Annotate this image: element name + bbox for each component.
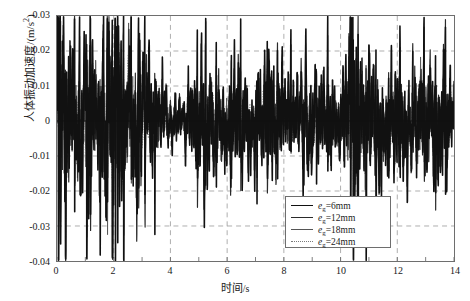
x-tick-label: 2 [98,265,128,276]
x-tick-label: 8 [269,265,299,276]
legend-item: eg=6mm [290,200,386,212]
y-axis-tick-labels: 0.03 0.02 0.01 0 -0.01 -0.02 -0.03 -0.04 [0,0,56,301]
y-tick-label: -0.03 [0,221,50,232]
legend-label: eg=12mm [314,213,355,223]
x-tick-label: 10 [326,265,356,276]
legend-line-sample [290,213,314,223]
x-axis-unit: /s [243,283,250,294]
y-tick-label: -0.02 [0,185,50,196]
legend-item: eg=12mm [290,212,386,224]
x-axis-title-text: 时间 [221,282,243,294]
y-tick-label: 0 [0,115,50,126]
x-tick-label: 12 [383,265,413,276]
legend: eg=6mm eg=12mm eg=18mm eg=24mm [285,196,391,248]
y-tick-label: 0.03 [0,9,50,20]
legend-line-sample [290,225,314,235]
legend-item: eg=24mm [290,236,386,248]
legend-label: eg=24mm [314,237,355,247]
data-traces [57,16,454,261]
x-tick-label: 14 [440,265,470,276]
legend-line-sample [290,201,314,211]
legend-label: eg=6mm [314,201,351,211]
x-tick-label: 4 [155,265,185,276]
y-tick-label: -0.01 [0,150,50,161]
data-trace [57,16,454,261]
legend-line-sample [290,237,314,247]
y-tick-label: 0.01 [0,80,50,91]
legend-label: eg=18mm [314,225,355,235]
x-axis-title: 时间/s [0,279,470,295]
legend-item: eg=18mm [290,224,386,236]
plot-area [56,15,455,262]
y-tick-label: 0.02 [0,44,50,55]
x-tick-label: 0 [41,265,71,276]
x-tick-label: 6 [212,265,242,276]
vibration-acceleration-figure: 人体振动加速度/(m/s2) 0.03 0.02 0.01 0 -0.01 -0… [0,0,470,301]
